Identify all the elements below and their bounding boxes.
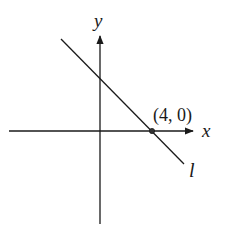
line-label: l — [189, 159, 195, 181]
x-axis-label: x — [201, 120, 211, 141]
coordinate-diagram: y x (4, 0) l — [0, 0, 225, 234]
point-label: (4, 0) — [153, 105, 192, 126]
y-axis-label: y — [92, 10, 103, 31]
x-intercept-point — [149, 128, 154, 133]
line-l — [61, 39, 184, 164]
